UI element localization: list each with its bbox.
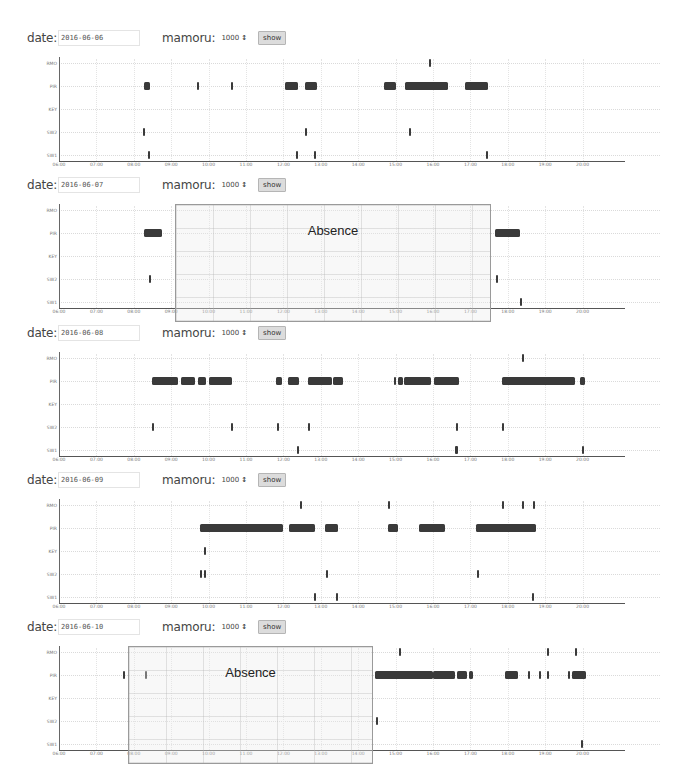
- mamoru-select-value: 1000: [221, 181, 239, 189]
- x-axis-tick-label: 15:00: [389, 604, 402, 609]
- gridline-vertical: [321, 501, 322, 603]
- mamoru-select[interactable]: 1000↕: [221, 34, 247, 42]
- x-axis-tick-label: 12:00: [277, 457, 290, 462]
- filter-controls: date:2016-06-09mamoru:1000↕show: [27, 470, 286, 490]
- sw2-event-mark: [409, 128, 411, 136]
- mamoru-select-value: 1000: [221, 476, 239, 484]
- y-axis: [59, 499, 60, 603]
- pir-activity-bar: [572, 671, 585, 679]
- pir-activity-bar: [285, 82, 298, 90]
- gridline-horizontal: [59, 574, 660, 575]
- gridline-vertical: [433, 501, 434, 603]
- show-button[interactable]: show: [258, 620, 286, 634]
- gridline-vertical: [321, 59, 322, 161]
- pir-activity-bar: [495, 229, 520, 237]
- gridline-vertical: [433, 648, 434, 750]
- y-axis-label: PIR: [30, 231, 57, 236]
- date-input[interactable]: 2016-06-10: [58, 619, 140, 635]
- gridline-vertical: [396, 354, 397, 456]
- x-axis-tick-label: 15:00: [389, 162, 402, 167]
- gridline-vertical: [545, 59, 546, 161]
- x-axis-tick-label: 16:00: [427, 162, 440, 167]
- gridline-horizontal: [59, 427, 660, 428]
- sw2-event-mark: [502, 423, 504, 431]
- gridline-vertical: [171, 59, 172, 161]
- sw1-event-mark: [520, 298, 522, 306]
- gridline-horizontal: [59, 551, 660, 552]
- gridline-vertical: [583, 206, 584, 308]
- y-axis-label: KEY: [30, 107, 57, 112]
- gridline-vertical: [470, 59, 471, 161]
- mamoru-select[interactable]: 1000↕: [221, 476, 247, 484]
- y-axis: [59, 57, 60, 161]
- x-axis-tick-label: 18:00: [501, 162, 514, 167]
- show-button[interactable]: show: [258, 31, 286, 45]
- x-axis-tick-label: 07:00: [90, 751, 103, 756]
- show-button[interactable]: show: [258, 473, 286, 487]
- pir-activity-bar: [288, 377, 299, 385]
- gridline-vertical: [396, 648, 397, 750]
- gridline-vertical: [134, 501, 135, 603]
- pir-activity-bar: [333, 377, 343, 385]
- gridline-vertical: [246, 501, 247, 603]
- rmo-event-mark: [522, 354, 524, 362]
- mamoru-select[interactable]: 1000↕: [221, 623, 247, 631]
- x-axis-tick-label: 20:00: [576, 162, 589, 167]
- gridline-vertical: [96, 59, 97, 161]
- mamoru-select[interactable]: 1000↕: [221, 329, 247, 337]
- show-button[interactable]: show: [258, 178, 286, 192]
- x-axis-tick-label: 06:00: [53, 604, 66, 609]
- show-button[interactable]: show: [258, 326, 286, 340]
- gridline-vertical: [508, 206, 509, 308]
- pir-activity-bar: [404, 377, 431, 385]
- x-axis-tick-label: 06:00: [53, 309, 66, 314]
- filter-controls: date:2016-06-08mamoru:1000↕show: [27, 323, 286, 343]
- pir-event-mark: [231, 82, 233, 90]
- date-input[interactable]: 2016-06-09: [58, 472, 140, 488]
- pir-activity-bar: [405, 82, 448, 90]
- pir-activity-bar: [580, 377, 585, 385]
- y-axis: [59, 646, 60, 750]
- x-axis-tick-label: 06:00: [53, 457, 66, 462]
- sw2-event-mark: [305, 128, 307, 136]
- x-axis-tick-label: 16:00: [427, 457, 440, 462]
- gridline-vertical: [470, 501, 471, 603]
- absence-overlay: Absence: [128, 646, 373, 764]
- select-arrows-icon: ↕: [241, 476, 247, 484]
- gridline-horizontal: [59, 528, 660, 529]
- gridline-vertical: [583, 59, 584, 161]
- x-axis-tick-label: 14:00: [352, 604, 365, 609]
- pir-activity-bar: [209, 377, 232, 385]
- date-input[interactable]: 2016-06-07: [58, 177, 140, 193]
- gridline-vertical: [545, 501, 546, 603]
- y-axis-label: PIR: [30, 673, 57, 678]
- gridline-vertical: [470, 648, 471, 750]
- sw1-event-mark: [148, 151, 150, 159]
- x-axis-tick-label: 18:00: [501, 457, 514, 462]
- mamoru-select[interactable]: 1000↕: [221, 181, 247, 189]
- pir-activity-bar: [144, 82, 150, 90]
- x-axis-tick-label: 16:00: [427, 604, 440, 609]
- gridline-vertical: [470, 354, 471, 456]
- x-axis-tick-label: 17:00: [464, 162, 477, 167]
- pir-activity-bar: [375, 671, 433, 679]
- gridline-vertical: [96, 206, 97, 308]
- gridline-vertical: [96, 501, 97, 603]
- gridline-horizontal: [59, 132, 660, 133]
- x-axis-tick-label: 17:00: [464, 751, 477, 756]
- select-arrows-icon: ↕: [241, 34, 247, 42]
- mamoru-label: mamoru:: [162, 178, 215, 192]
- y-axis-label: SW1: [30, 153, 57, 158]
- pir-activity-bar: [388, 524, 398, 532]
- gridline-horizontal: [59, 505, 660, 506]
- date-input[interactable]: 2016-06-06: [58, 30, 140, 46]
- date-input[interactable]: 2016-06-08: [58, 325, 140, 341]
- gridline-vertical: [283, 59, 284, 161]
- y-axis-label: RMO: [30, 208, 57, 213]
- pir-activity-bar: [198, 377, 206, 385]
- y-axis-label: SW2: [30, 277, 57, 282]
- select-arrows-icon: ↕: [241, 623, 247, 631]
- y-axis-label: PIR: [30, 84, 57, 89]
- gridline-vertical: [246, 59, 247, 161]
- x-axis-tick-label: 18:00: [501, 309, 514, 314]
